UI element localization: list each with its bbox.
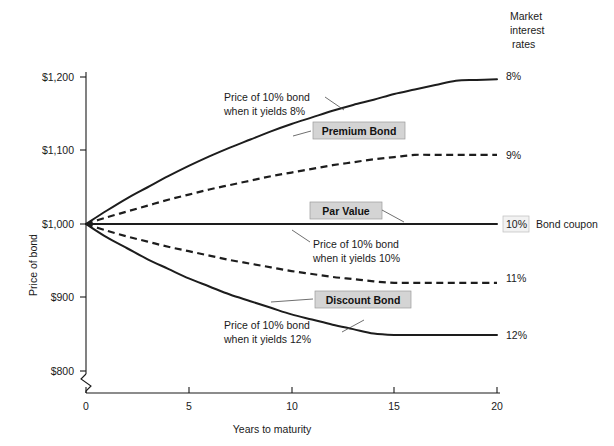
note8-leader	[325, 97, 344, 110]
annotation-premium-bond: Premium Bond	[293, 122, 405, 139]
par-value-label: Par Value	[322, 205, 369, 217]
annotation-note-10: Price of 10% bond when it yields 10%	[292, 230, 400, 264]
discount-bond-label: Discount Bond	[326, 294, 401, 306]
y-tick-labels: $1,200 $1,100 $1,000 $900 $800	[42, 71, 74, 377]
premium-bond-leader	[293, 131, 311, 136]
x-axis-title: Years to maturity	[233, 423, 312, 435]
note10-line2: when it yields 10%	[312, 252, 400, 264]
y-axis-title: Price of bond	[27, 234, 39, 296]
curve-9pct	[86, 155, 497, 224]
y-tick-label-1200: $1,200	[42, 71, 74, 83]
legend-item-9[interactable]: 9%	[506, 149, 521, 161]
y-tick-label-1000: $1,000	[42, 218, 74, 230]
chart-canvas: $1,200 $1,100 $1,000 $900 $800 0 5 10 15…	[0, 0, 614, 446]
curve-11pct	[86, 224, 497, 283]
x-tick-label-15: 15	[388, 400, 400, 412]
note12-line2: when it yields 12%	[223, 333, 311, 345]
legend-item-12[interactable]: 12%	[506, 329, 527, 341]
legend-item-10[interactable]: 10%	[506, 218, 527, 230]
y-tick-label-1100: $1,100	[42, 144, 74, 156]
x-tick-label-5: 5	[186, 400, 192, 412]
note10-line1: Price of 10% bond	[313, 238, 399, 250]
bond-coupon-caption: Bond coupon	[536, 218, 598, 230]
legend-header: Market interest rates	[510, 10, 545, 50]
x-tick-labels: 0 5 10 15 20	[83, 400, 503, 412]
x-tick-label-0: 0	[83, 400, 89, 412]
premium-bond-label: Premium Bond	[322, 125, 397, 137]
note10-leader	[292, 230, 310, 242]
y-tick-label-800: $800	[51, 365, 75, 377]
annotation-par-value: Par Value	[310, 202, 404, 222]
curve-layer	[86, 79, 497, 335]
note8-line2: when it yields 8%	[223, 105, 305, 117]
legend-header-line3: rates	[512, 38, 535, 50]
par-value-leader	[382, 210, 404, 222]
x-tick-label-10: 10	[286, 400, 298, 412]
note12-line1: Price of 10% bond	[224, 319, 310, 331]
annotation-note-12: Price of 10% bond when it yields 12%	[223, 319, 364, 345]
discount-bond-leader	[271, 299, 313, 302]
x-tick-label-20: 20	[491, 400, 503, 412]
legend-item-8[interactable]: 8%	[506, 70, 521, 82]
annotation-discount-bond: Discount Bond	[271, 291, 411, 308]
bond-price-chart: $1,200 $1,100 $1,000 $900 $800 0 5 10 15…	[0, 0, 614, 446]
legend-item-11[interactable]: 11%	[506, 272, 526, 284]
y-tick-label-900: $900	[51, 291, 75, 303]
legend-items: 8% 9% 10% Bond coupon 11% 12%	[503, 70, 598, 341]
legend-header-line2: interest	[510, 24, 545, 36]
legend-header-line1: Market	[510, 10, 542, 22]
note8-line1: Price of 10% bond	[224, 91, 310, 103]
